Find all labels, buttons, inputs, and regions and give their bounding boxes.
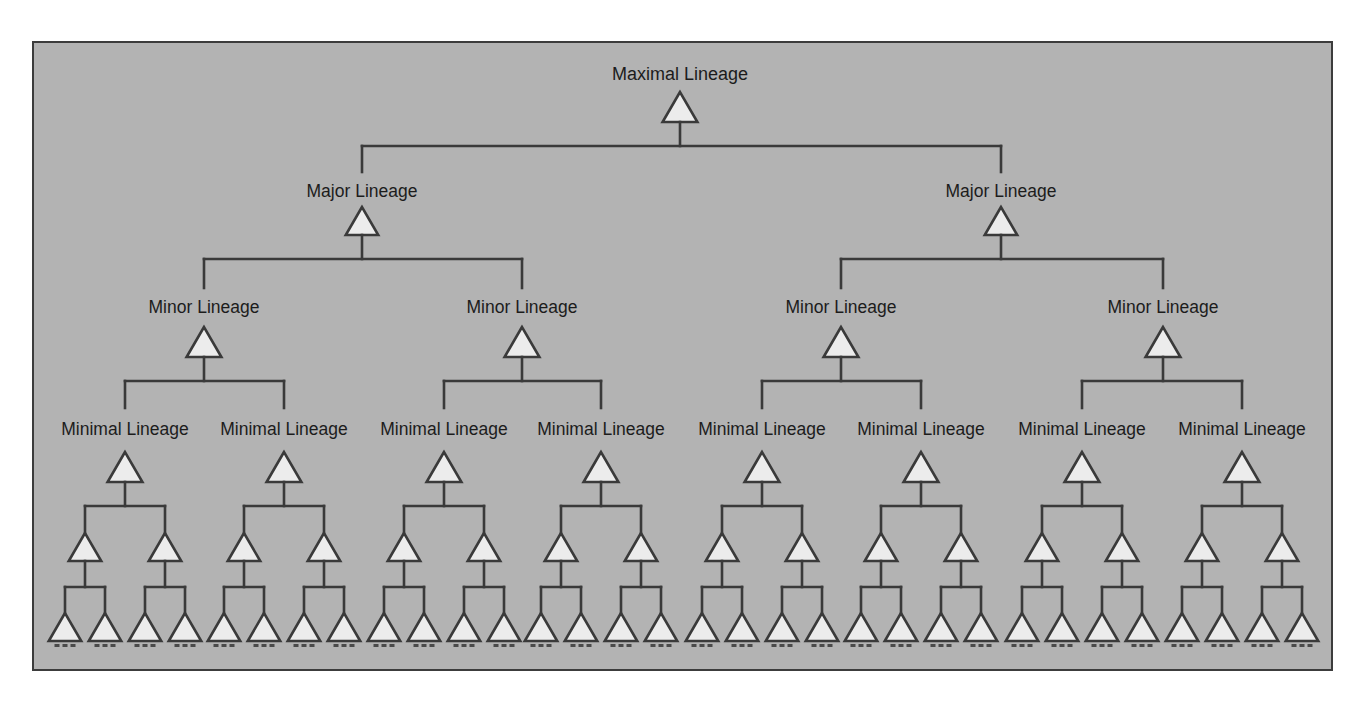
leaf-lineage-triangle-icon	[605, 613, 637, 641]
leaf-lineage-triangle-icon	[89, 613, 121, 641]
continuation-dots-icon	[1172, 644, 1193, 647]
minimal-lineage-label: Minimal Lineage	[61, 419, 188, 439]
leaf-lineage-triangle-icon	[208, 613, 240, 641]
leaf-lineage-triangle-icon	[1046, 613, 1078, 641]
leaf-lineage-triangle-icon	[368, 613, 400, 641]
sub-lineage-triangle-icon	[545, 533, 577, 561]
continuation-dots-icon	[772, 644, 793, 647]
continuation-dots-icon	[254, 644, 275, 647]
sub-lineage-triangle-icon	[228, 533, 260, 561]
leaf-lineage-triangle-icon	[1286, 613, 1318, 641]
continuation-dots-icon	[611, 644, 632, 647]
major-lineage-label: Major Lineage	[946, 181, 1057, 201]
minimal-lineage-label: Minimal Lineage	[698, 419, 825, 439]
leaf-lineage-triangle-icon	[766, 613, 798, 641]
continuation-dots-icon	[55, 644, 76, 647]
minor-lineage-label: Minor Lineage	[1108, 297, 1219, 317]
continuation-dots-icon	[1292, 644, 1313, 647]
leaf-lineage-triangle-icon	[169, 613, 201, 641]
sub-lineage-triangle-icon	[706, 533, 738, 561]
continuation-dots-icon	[1092, 644, 1113, 647]
sub-lineage-triangle-icon	[149, 533, 181, 561]
leaf-lineage-triangle-icon	[328, 613, 360, 641]
minor-lineage-triangle-icon	[187, 327, 222, 357]
minimal-lineage-triangle-icon	[1225, 452, 1260, 482]
leaf-lineage-triangle-icon	[885, 613, 917, 641]
continuation-dots-icon	[971, 644, 992, 647]
continuation-dots-icon	[494, 644, 515, 647]
continuation-dots-icon	[454, 644, 475, 647]
minor-lineage-label: Minor Lineage	[786, 297, 897, 317]
minor-lineage-label: Minor Lineage	[149, 297, 260, 317]
sub-lineage-triangle-icon	[865, 533, 897, 561]
continuation-dots-icon	[651, 644, 672, 647]
continuation-dots-icon	[732, 644, 753, 647]
continuation-dots-icon	[1212, 644, 1233, 647]
continuation-dots-icon	[931, 644, 952, 647]
sub-lineage-triangle-icon	[786, 533, 818, 561]
continuation-dots-icon	[1052, 644, 1073, 647]
minimal-lineage-label: Minimal Lineage	[857, 419, 984, 439]
minor-lineage-label: Minor Lineage	[467, 297, 578, 317]
continuation-dots-icon	[374, 644, 395, 647]
leaf-lineage-triangle-icon	[1246, 613, 1278, 641]
continuation-dots-icon	[334, 644, 355, 647]
continuation-dots-icon	[692, 644, 713, 647]
minor-lineage-triangle-icon	[824, 327, 859, 357]
minimal-lineage-label: Minimal Lineage	[380, 419, 507, 439]
leaf-lineage-triangle-icon	[645, 613, 677, 641]
sub-lineage-triangle-icon	[945, 533, 977, 561]
leaf-lineage-triangle-icon	[448, 613, 480, 641]
leaf-lineage-triangle-icon	[488, 613, 520, 641]
leaf-lineage-triangle-icon	[686, 613, 718, 641]
sub-lineage-triangle-icon	[1026, 533, 1058, 561]
continuation-dots-icon	[175, 644, 196, 647]
leaf-lineage-triangle-icon	[1166, 613, 1198, 641]
continuation-dots-icon	[891, 644, 912, 647]
leaf-lineage-triangle-icon	[248, 613, 280, 641]
leaf-lineage-triangle-icon	[1006, 613, 1038, 641]
continuation-dots-icon	[135, 644, 156, 647]
continuation-dots-icon	[571, 644, 592, 647]
lineage-tree-diagram: Maximal LineageMajor LineageMajor Lineag…	[0, 0, 1363, 702]
continuation-dots-icon	[1252, 644, 1273, 647]
leaf-lineage-triangle-icon	[288, 613, 320, 641]
sub-lineage-triangle-icon	[625, 533, 657, 561]
minimal-lineage-triangle-icon	[904, 452, 939, 482]
leaf-lineage-triangle-icon	[408, 613, 440, 641]
leaf-lineage-triangle-icon	[806, 613, 838, 641]
continuation-dots-icon	[294, 644, 315, 647]
leaf-lineage-triangle-icon	[925, 613, 957, 641]
leaf-lineage-triangle-icon	[525, 613, 557, 641]
continuation-dots-icon	[414, 644, 435, 647]
sub-lineage-triangle-icon	[1266, 533, 1298, 561]
sub-lineage-triangle-icon	[388, 533, 420, 561]
continuation-dots-icon	[1132, 644, 1153, 647]
major-lineage-label: Major Lineage	[307, 181, 418, 201]
continuation-dots-icon	[812, 644, 833, 647]
minimal-lineage-triangle-icon	[108, 452, 143, 482]
sub-lineage-triangle-icon	[1186, 533, 1218, 561]
major-lineage-triangle-icon	[985, 207, 1017, 235]
minor-lineage-triangle-icon	[1146, 327, 1181, 357]
continuation-dots-icon	[214, 644, 235, 647]
continuation-dots-icon	[1012, 644, 1033, 647]
leaf-lineage-triangle-icon	[565, 613, 597, 641]
minimal-lineage-triangle-icon	[427, 452, 462, 482]
leaf-lineage-triangle-icon	[965, 613, 997, 641]
leaf-lineage-triangle-icon	[1086, 613, 1118, 641]
minimal-lineage-triangle-icon	[745, 452, 780, 482]
leaf-lineage-triangle-icon	[845, 613, 877, 641]
sub-lineage-triangle-icon	[1106, 533, 1138, 561]
sub-lineage-triangle-icon	[69, 533, 101, 561]
leaf-lineage-triangle-icon	[726, 613, 758, 641]
continuation-dots-icon	[851, 644, 872, 647]
leaf-lineage-triangle-icon	[129, 613, 161, 641]
minimal-lineage-label: Minimal Lineage	[1018, 419, 1145, 439]
minimal-lineage-triangle-icon	[584, 452, 619, 482]
continuation-dots-icon	[531, 644, 552, 647]
minimal-lineage-triangle-icon	[1065, 452, 1100, 482]
minimal-lineage-label: Minimal Lineage	[220, 419, 347, 439]
leaf-lineage-triangle-icon	[1126, 613, 1158, 641]
maximal-lineage-triangle-icon	[663, 92, 698, 122]
